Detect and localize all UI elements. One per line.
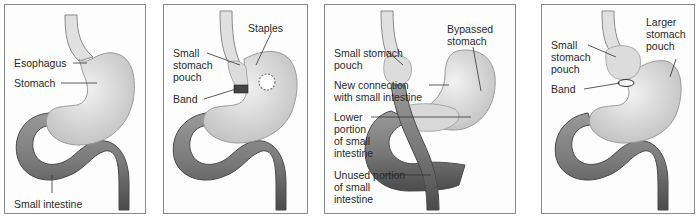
esophagus-shape bbox=[220, 11, 240, 65]
band-shape bbox=[618, 80, 634, 87]
small-pouch-shape bbox=[606, 46, 641, 80]
label-band: Band bbox=[173, 93, 198, 105]
label-new-connection: New connection with small intestine bbox=[334, 79, 424, 103]
panel-gastric-bypass: Bypassed stomach Small stomach pouch New… bbox=[324, 4, 516, 214]
panel-normal-anatomy: Esophagus Stomach Small intestine bbox=[4, 4, 146, 214]
normal-anatomy-illustration bbox=[5, 5, 146, 214]
gastroplasty-illustration bbox=[164, 5, 308, 214]
panel-vertical-banded-gastroplasty: Staples Small stomach pouch Band bbox=[163, 4, 308, 214]
label-small-stomach-pouch: Small stomach pouch bbox=[551, 39, 597, 75]
label-unused-portion: Unused portion of small intestine bbox=[334, 169, 406, 205]
esophagus-shape bbox=[65, 15, 93, 61]
label-band: Band bbox=[551, 83, 576, 95]
label-small-stomach-pouch: Small stomach pouch bbox=[173, 47, 221, 83]
staple-window bbox=[259, 74, 275, 90]
label-bypassed-stomach: Bypassed stomach bbox=[447, 23, 507, 47]
label-small-stomach-pouch: Small stomach pouch bbox=[334, 47, 414, 71]
label-staples: Staples bbox=[248, 22, 283, 34]
label-stomach: Stomach bbox=[14, 77, 55, 89]
label-lower-portion: Lower portion of small intestine bbox=[334, 111, 376, 159]
band-shape bbox=[234, 85, 248, 93]
label-esophagus: Esophagus bbox=[14, 57, 67, 69]
esophagus-shape bbox=[602, 11, 622, 51]
panel-adjustable-gastric-banding: Larger stomach pouch Small stomach pouch… bbox=[541, 4, 695, 214]
label-larger-stomach-pouch: Larger stomach pouch bbox=[646, 16, 692, 52]
label-small-intestine: Small intestine bbox=[14, 198, 82, 210]
